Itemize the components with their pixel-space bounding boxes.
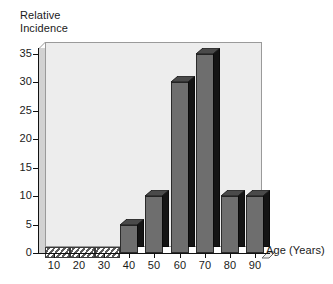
x-axis-tick-label: 70: [192, 259, 218, 271]
x-axis-tick-label: 30: [91, 259, 117, 271]
y-axis-tick: [33, 168, 39, 169]
y-axis-tick: [33, 111, 39, 112]
y-axis-tick-label: 10: [0, 189, 32, 201]
bar-column: [120, 219, 145, 253]
y-axis-tick: [33, 139, 39, 140]
bar-column: [145, 190, 170, 253]
x-axis-tick-label: 10: [41, 259, 67, 271]
bar-chart: Relative Incidence 05101520253035 102030…: [0, 0, 333, 284]
bar-front-face: [246, 196, 264, 253]
x-axis-tick: [54, 253, 55, 258]
bar-top-face: [120, 219, 146, 227]
x-axis-tick: [154, 253, 155, 258]
y-axis-title: Relative Incidence: [20, 9, 68, 35]
y-axis-tick-label: 35: [0, 47, 32, 59]
x-axis-tick-label: 40: [116, 259, 142, 271]
x-axis-tick-label: 80: [217, 259, 243, 271]
y-axis-tick-label: 5: [0, 218, 32, 230]
x-axis-tick-label: 20: [66, 259, 92, 271]
plot-left-wall: [38, 48, 45, 253]
y-axis-tick-label: 25: [0, 104, 32, 116]
x-axis-tick: [104, 253, 105, 258]
bar-top-face: [145, 190, 171, 198]
bar-front-face: [145, 196, 163, 253]
y-axis-tick: [33, 82, 39, 83]
x-axis-tick: [79, 253, 80, 258]
bar-side-face: [263, 190, 270, 247]
bar-side-face: [238, 190, 245, 247]
bar-column: [171, 76, 196, 253]
bar-top-face: [246, 190, 272, 198]
bar-front-face: [196, 54, 214, 253]
x-axis-tick-label: 50: [141, 259, 167, 271]
y-axis-tick-label: 15: [0, 161, 32, 173]
bar-front-face: [120, 225, 138, 253]
bar-column: [196, 48, 221, 253]
y-axis-line: [38, 48, 39, 254]
plot-top-bevel: [38, 42, 46, 49]
bar-front-face: [171, 82, 189, 253]
x-axis-tick-label: 90: [242, 259, 268, 271]
bar-front-face: [221, 196, 239, 253]
y-axis-tick-label: 30: [0, 75, 32, 87]
x-axis-title: Age (Years): [266, 244, 325, 256]
bar-side-face: [213, 48, 220, 247]
x-axis-tick: [129, 253, 130, 258]
bar-top-face: [196, 48, 222, 56]
bar-top-face: [221, 190, 247, 198]
x-axis-tick: [205, 253, 206, 258]
y-axis-tick: [33, 196, 39, 197]
y-axis-tick: [33, 54, 39, 55]
bar-side-face: [162, 190, 169, 247]
x-axis-tick-label: 60: [167, 259, 193, 271]
bar-column: [221, 190, 246, 253]
y-axis-tick-label: 20: [0, 132, 32, 144]
x-axis-tick: [180, 253, 181, 258]
x-axis-tick: [255, 253, 256, 258]
y-axis-tick-label: 0: [0, 246, 32, 258]
y-axis-tick: [33, 225, 39, 226]
bar-top-face: [171, 76, 197, 84]
x-axis-tick: [230, 253, 231, 258]
bar-side-face: [188, 76, 195, 247]
